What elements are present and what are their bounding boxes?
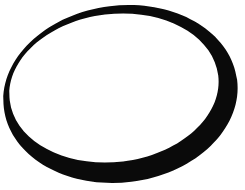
ellipse-figure: A thick black hand-drawn ellipse ring on…: [0, 0, 245, 190]
background-rect: [0, 0, 245, 190]
drawing-canvas: A thick black hand-drawn ellipse ring on…: [0, 0, 245, 190]
